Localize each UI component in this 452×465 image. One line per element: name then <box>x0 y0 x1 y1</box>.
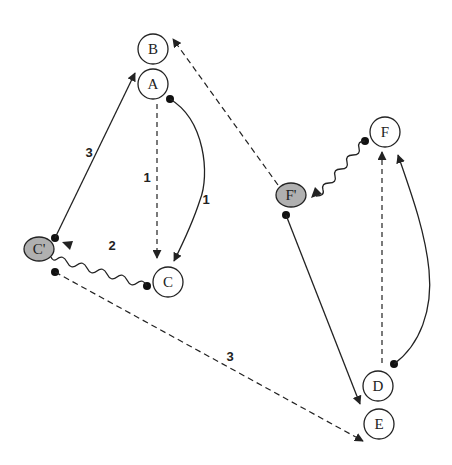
node-a: A <box>138 69 168 99</box>
edge-fp-to-d <box>286 215 360 404</box>
node-c: C <box>153 267 183 297</box>
node-fp: F' <box>276 183 306 207</box>
label-A-C-curve: 1 <box>202 192 209 207</box>
edge-c-to-cp-wavy <box>51 257 147 286</box>
node-label: A <box>148 76 159 92</box>
edge-d-to-f-curve <box>394 155 430 364</box>
node-label: B <box>148 41 158 57</box>
node-b: B <box>138 34 168 64</box>
diagram-canvas: BACC'FF'DE 11233 <box>0 0 452 465</box>
edge-a-to-c-curve <box>170 99 205 261</box>
node-label: F <box>381 124 389 140</box>
node-label: F' <box>285 187 296 203</box>
label-C-Cp-wavy: 2 <box>108 238 115 253</box>
node-label: D <box>373 378 384 394</box>
node-d: D <box>363 371 393 401</box>
edge-fp-to-b-dashed <box>173 39 278 185</box>
label-Cp-E: 3 <box>226 349 233 364</box>
node-f: F <box>370 117 400 147</box>
label-A-C-dashed: 1 <box>143 170 150 185</box>
edge-c-to-cp-arrowhead <box>62 241 73 250</box>
label-Cp-A: 3 <box>85 145 92 160</box>
node-label: E <box>374 416 383 432</box>
edge-cp-to-a <box>55 73 135 238</box>
node-e: E <box>364 409 394 439</box>
node-label: C <box>163 274 173 290</box>
edge-cp-to-e-dashed <box>55 272 363 441</box>
node-label: C' <box>33 241 46 257</box>
node-cp: C' <box>24 237 54 261</box>
edge-f-to-fp-wavy <box>316 141 365 196</box>
